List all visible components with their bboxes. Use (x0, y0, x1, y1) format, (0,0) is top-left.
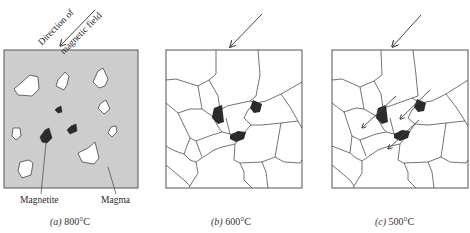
caption-b-letter: (b) (211, 216, 223, 227)
grain-box-b (166, 50, 302, 188)
caption-c-temp: 500°C (389, 216, 415, 227)
caption-c: (c) 500°C (375, 216, 414, 227)
caption-a-letter: (a) (50, 216, 62, 227)
magma-label: Magma (101, 195, 130, 205)
panel-b (166, 14, 302, 188)
field-arrow-c (392, 15, 421, 47)
caption-c-letter: (c) (375, 216, 386, 227)
caption-a: (a) 800°C (50, 216, 90, 227)
field-arrow-b (230, 14, 262, 47)
panel-c (332, 15, 468, 188)
caption-b-temp: 600°C (225, 216, 251, 227)
magnetite-label: Magnetite (20, 195, 59, 205)
caption-a-temp: 800°C (64, 216, 90, 227)
caption-b: (b) 600°C (211, 216, 251, 227)
